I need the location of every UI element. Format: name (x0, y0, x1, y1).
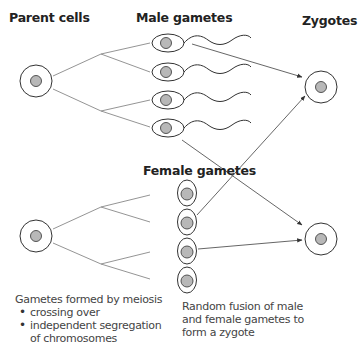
caption-fusion: Random fusion of male and female gametes… (182, 300, 304, 339)
bullet-crossing-over: crossing over (19, 306, 162, 319)
fusion-arrows (182, 44, 305, 249)
caption-fusion-line-2: and female gametes to (182, 313, 304, 326)
caption-meiosis-continuation: of chromosomes (30, 332, 162, 345)
female-gamete-3 (178, 238, 197, 264)
caption-meiosis: Gametes formed by meiosis crossing over … (15, 293, 162, 345)
male-gamete-4 (152, 119, 251, 137)
heading-parent-cells: Parent cells (9, 10, 90, 25)
heading-zygotes: Zygotes (302, 13, 357, 28)
arrow-male1-to-zygote1 (192, 44, 302, 77)
caption-meiosis-bullets: crossing over independent segregation (15, 306, 162, 332)
male-gamete-2 (152, 63, 251, 81)
caption-fusion-line-3: form a zygote (182, 326, 304, 339)
branch-lines-male (53, 43, 150, 127)
female-gamete-2 (178, 209, 197, 235)
female-gamete-1 (178, 180, 197, 206)
heading-male-gametes: Male gametes (136, 10, 232, 25)
zygote-bottom (305, 223, 337, 255)
caption-meiosis-title: Gametes formed by meiosis (15, 293, 162, 306)
arrow-female3-to-zygote2 (198, 240, 302, 249)
female-gamete-4 (178, 267, 197, 293)
parent-cell-bottom (20, 220, 52, 252)
bullet-independent-segregation: independent segregation (19, 319, 162, 332)
caption-fusion-line-1: Random fusion of male (182, 300, 304, 313)
arrow-female2-to-zygote1 (197, 96, 305, 215)
male-gamete-1 (152, 34, 251, 52)
branch-lines-female (53, 195, 150, 279)
male-gamete-3 (152, 91, 251, 109)
heading-female-gametes: Female gametes (143, 163, 256, 178)
parent-cell-top (20, 65, 52, 97)
zygote-top (305, 71, 337, 103)
